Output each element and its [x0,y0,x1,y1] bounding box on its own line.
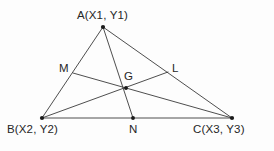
vertex-c-label: C(X3, Y3) [193,124,245,136]
point-g-marker [124,86,128,90]
point-b-marker [40,116,44,120]
median-CM-line [73,73,232,118]
centroid-g-label: G [124,71,133,83]
side-AB-line [42,27,103,118]
midpoint-m-label: M [59,63,69,75]
triangle-sides [42,27,232,118]
marked-points [40,25,234,120]
vertex-b-label: B(X2, Y2) [7,124,58,136]
point-a-marker [101,25,105,29]
midpoint-n-label: N [129,124,138,136]
vertex-a-label: A(X1, Y1) [77,10,128,22]
point-c-marker [230,116,234,120]
point-n-marker [131,116,135,120]
triangle-centroid-diagram: A(X1, Y1) B(X2, Y2) C(X3, Y3) M G L N [0,0,274,151]
midpoint-l-label: L [172,63,179,75]
triangle-medians [42,27,232,118]
